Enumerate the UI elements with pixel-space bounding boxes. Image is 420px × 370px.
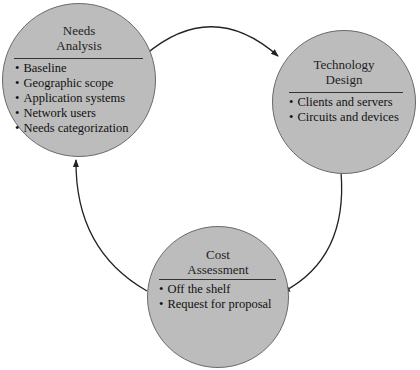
bullet-list: Clients and servers Circuits and devices	[289, 95, 399, 125]
title-line: Assessment	[148, 262, 288, 277]
title-line: Technology	[273, 57, 415, 72]
bullet-list: Baseline Geographic scope Application sy…	[15, 61, 129, 136]
bullet-list: Off the shelf Request for proposal	[159, 282, 272, 312]
node-title: Cost Assessment	[148, 247, 288, 277]
arrow-cost-to-needs	[76, 160, 147, 291]
list-item: Network users	[15, 106, 129, 121]
list-item: Request for proposal	[159, 297, 272, 312]
node-needs-analysis: Needs Analysis Baseline Geographic scope…	[2, 3, 156, 157]
node-title: Needs Analysis	[3, 23, 155, 53]
list-item: Baseline	[15, 61, 129, 76]
divider	[14, 58, 143, 59]
list-item: Geographic scope	[15, 76, 129, 91]
arrow-technology-to-cost	[283, 172, 342, 292]
list-item: Circuits and devices	[289, 110, 399, 125]
list-item: Off the shelf	[159, 282, 272, 297]
arrow-needs-to-technology	[145, 27, 278, 56]
title-line: Needs	[3, 23, 155, 38]
divider	[159, 279, 276, 280]
divider	[289, 92, 403, 93]
title-line: Cost	[148, 247, 288, 262]
list-item: Clients and servers	[289, 95, 399, 110]
node-title: Technology Design	[273, 57, 415, 87]
list-item: Application systems	[15, 91, 129, 106]
title-line: Analysis	[3, 38, 155, 53]
node-cost-assessment: Cost Assessment Off the shelf Request fo…	[147, 226, 289, 368]
list-item: Needs categorization	[15, 121, 129, 136]
node-technology-design: Technology Design Clients and servers Ci…	[272, 30, 416, 174]
title-line: Design	[273, 72, 415, 87]
